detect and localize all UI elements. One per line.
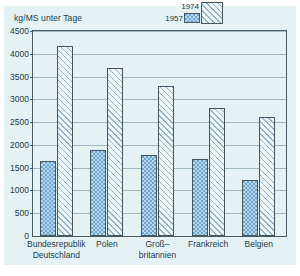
plot-area: 50010001500200025003000350040004500 0 Bu… [32,30,287,237]
y-axis-tick-label: 3000 [10,94,29,104]
x-axis-tick-label-line: Bundesrepublik [27,239,86,250]
x-axis-tick-label-line: Frankreich [188,239,228,250]
x-axis-tick-label: Frankreich [188,239,228,250]
legend-label-1974: 1974 [181,2,199,11]
x-axis-tick-label: Groß–britannien [139,239,176,260]
bar-1957-Polen [90,150,106,236]
legend-entry-1957: 1957 [165,13,200,23]
chart-figure: kg/MS unter Tage 50010001500200025003000… [0,0,300,276]
y-axis-tick-label: 1000 [10,185,29,195]
bar-1957-Bundesrepublik [40,161,56,236]
y-axis-label: kg/MS unter Tage [14,13,82,23]
x-axis-tick-label: Belgien [245,239,273,250]
x-axis-tick-label-line: Deutschland [27,250,86,261]
bar-1957-Frankreich [192,159,208,236]
y-axis-tick-label: 1500 [10,163,29,173]
bar-1974-Groß– [158,86,174,236]
bars-layer [33,31,286,236]
bar-1974-Belgien [259,117,275,236]
x-axis-tick-label-line: britannien [139,250,176,261]
y-axis-tick-label: 2000 [10,140,29,150]
x-axis-tick-label-line: Belgien [245,239,273,250]
y-axis-tick-label: 4500 [10,26,29,36]
x-axis-tick-label: Polen [96,239,118,250]
legend-label-1957: 1957 [165,14,183,23]
bar-1974-Bundesrepublik [57,46,73,236]
x-axis-tick-label: BundesrepublikDeutschland [27,239,86,260]
bar-1974-Polen [107,68,123,236]
bar-1974-Frankreich [209,108,225,236]
y-axis-tick-label: 500 [15,208,29,218]
legend-entry-1974: 1974 [181,2,200,11]
x-axis-tick-label-line: Polen [96,239,118,250]
y-axis-tick-label: 4000 [10,49,29,59]
bar-1957-Groß– [141,155,157,236]
bar-1957-Belgien [242,180,258,236]
legend-swatch-1957 [184,13,200,23]
chart-legend: 1974 1957 [163,2,223,26]
legend-swatch-1974 [201,2,223,24]
x-axis-tick-label-line: Groß– [139,239,176,250]
y-axis-tick-label: 2500 [10,117,29,127]
y-axis-tick-label: 3500 [10,72,29,82]
